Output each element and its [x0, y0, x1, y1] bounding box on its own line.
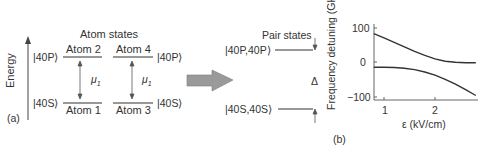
atom-states-title: Atom states: [80, 28, 138, 40]
mu1-left-label: μ1: [91, 73, 101, 87]
xtick-1: 1: [382, 104, 388, 116]
energy-axis-label: Energy: [4, 53, 16, 88]
block-arrow-icon: [187, 70, 233, 91]
atom2-label: Atom 2: [66, 43, 101, 55]
chart-x-axis-label: ε (kV/cm): [402, 118, 446, 130]
ytick-0: 0: [360, 56, 366, 68]
panel-b-label: (b): [333, 133, 346, 145]
ket-40S-left: |40S⟩: [33, 97, 58, 109]
ket-40P-right: |40P⟩: [157, 51, 182, 63]
transition-arrow-left: [78, 61, 82, 99]
mu1-right-label: μ1: [142, 73, 152, 87]
ket-40P-left: |40P⟩: [33, 51, 58, 63]
energy-axis-arrow: [25, 36, 31, 120]
atom4-label: Atom 4: [116, 43, 151, 55]
ket-40P-40P: |40P,40P⟩: [225, 44, 271, 56]
lower-branch-curve: [374, 67, 476, 95]
mu-subscript: 1: [97, 80, 101, 87]
transition-arrow-right: [130, 61, 134, 99]
xtick-2: 2: [432, 104, 438, 116]
atom1-label: Atom 1: [66, 104, 101, 116]
ytick-minus100: −100: [347, 91, 371, 103]
pair-states-title: Pair states: [262, 29, 312, 41]
atom-levels: [63, 57, 153, 103]
delta-label: Δ: [311, 75, 318, 87]
chart-y-axis-label: Frequency detuning (GHz): [325, 0, 337, 110]
ket-40S-40S: |40S,40S⟩: [225, 103, 272, 115]
pair-levels: [275, 50, 313, 109]
upper-branch-curve: [374, 34, 476, 63]
ytick-100: 100: [352, 22, 370, 34]
atom3-label: Atom 3: [116, 104, 151, 116]
mu-subscript: 1: [148, 80, 152, 87]
ket-40S-right: |40S⟩: [157, 97, 182, 109]
panel-a-label: (a): [7, 112, 20, 124]
